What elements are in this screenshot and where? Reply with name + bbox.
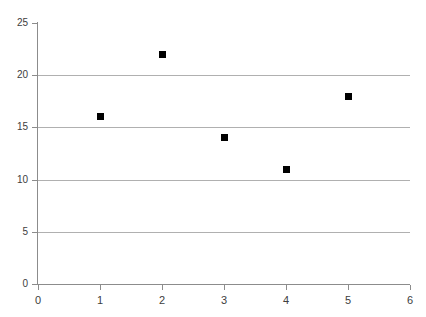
y-axis-tick-label: 10 <box>0 175 28 185</box>
gridline <box>38 232 410 233</box>
y-axis-tick-label: 15 <box>0 122 28 132</box>
gridline <box>38 75 410 76</box>
x-axis-tick <box>286 285 287 290</box>
x-axis-tick <box>348 285 349 290</box>
y-axis-tick <box>32 23 37 24</box>
x-axis-tick-label: 3 <box>204 294 244 306</box>
y-axis-tick <box>32 75 37 76</box>
data-point-marker <box>159 51 166 58</box>
data-point-marker <box>221 134 228 141</box>
x-axis-tick-label: 0 <box>18 294 58 306</box>
x-axis-tick <box>410 285 411 290</box>
y-axis-line <box>37 22 38 285</box>
gridline <box>38 127 410 128</box>
x-axis-tick-label: 1 <box>80 294 120 306</box>
x-axis-tick <box>100 285 101 290</box>
data-point-marker <box>345 93 352 100</box>
y-axis-tick-label: 20 <box>0 70 28 80</box>
y-axis-tick-label: 25 <box>0 18 28 28</box>
y-axis-tick <box>32 180 37 181</box>
x-axis-tick-label: 6 <box>390 294 426 306</box>
x-axis-tick-label: 4 <box>266 294 306 306</box>
scatter-chart: 25 20 15 10 5 0 0 1 2 3 4 5 6 <box>0 0 426 317</box>
data-point-marker <box>97 113 104 120</box>
y-axis-tick <box>32 232 37 233</box>
y-axis-tick-label: 5 <box>0 227 28 237</box>
x-axis-tick <box>162 285 163 290</box>
x-axis-tick-label: 5 <box>328 294 368 306</box>
y-axis-tick-label: 0 <box>0 279 28 289</box>
gridline <box>38 180 410 181</box>
x-axis-tick <box>38 285 39 290</box>
x-axis-tick-label: 2 <box>142 294 182 306</box>
plot-area <box>38 23 410 284</box>
x-axis-tick <box>224 285 225 290</box>
y-axis-tick <box>32 127 37 128</box>
data-point-marker <box>283 166 290 173</box>
y-axis-tick <box>32 284 37 285</box>
